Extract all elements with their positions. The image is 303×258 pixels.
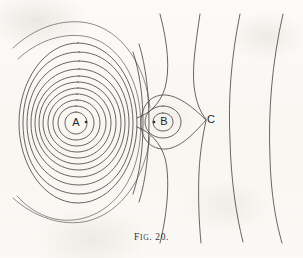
separatrix-left-branch-lower: [137, 127, 168, 243]
label-c: C: [207, 113, 215, 125]
equipotential-b-lobe: [141, 95, 206, 149]
equipotential-far-2: [270, 14, 283, 243]
separatrix-left-branch-upper: [137, 14, 168, 118]
equipotential-contour-plot: A B C: [0, 0, 303, 258]
charge-a-dot: [85, 121, 88, 124]
separatrix-through-c-lower-right: [199, 121, 206, 243]
figure-caption: FIG. 20.: [0, 232, 303, 242]
charge-b-dot: [153, 121, 156, 124]
separatrix-through-c-upper: [193, 14, 206, 119]
caption-smallcaps: IG: [140, 233, 149, 242]
label-a: A: [72, 116, 80, 128]
figure-container: A B C FIG. 20.: [0, 0, 303, 258]
label-b: B: [160, 115, 167, 127]
caption-suffix: . 20.: [149, 232, 169, 242]
equipotential-far-1: [229, 14, 243, 242]
